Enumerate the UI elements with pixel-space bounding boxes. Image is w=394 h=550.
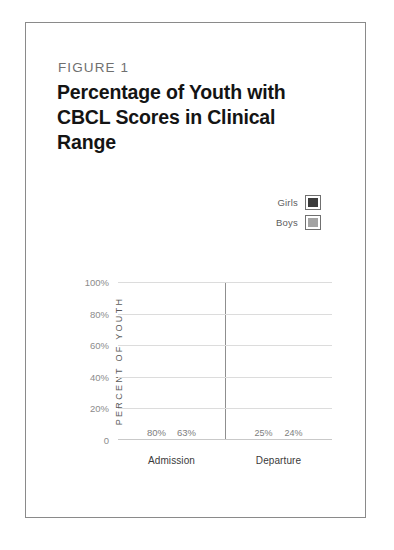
figure-frame: FIGURE 1 Percentage of Youth with CBCL S… [25,22,366,518]
legend-item-boys: Boys [276,215,321,230]
legend-label-boys: Boys [276,217,298,228]
legend-swatch-girls [305,195,321,210]
legend-swatch-boys [305,215,321,230]
figure-title: Percentage of Youth with CBCL Scores in … [57,80,317,154]
legend-label-girls: Girls [277,197,298,208]
figure-number-label: FIGURE 1 [58,60,129,75]
legend-item-girls: Girls [277,195,321,210]
chart-legend: Girls Boys [276,195,321,230]
